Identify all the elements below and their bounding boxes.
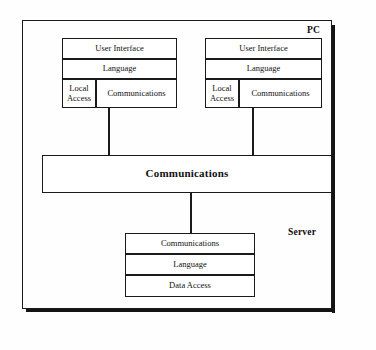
boundary-shadow-bottom [26,309,335,312]
diagram-canvas: PC Server User Interface Language Local … [0,0,376,350]
connector-client-left-to-bus [108,108,110,155]
client-left-local-access-layer: Local Access [62,79,96,108]
client-right-user-interface-layer: User Interface [205,38,322,59]
client-left-user-interface-layer: User Interface [62,38,177,59]
server-language-layer: Language [125,254,255,275]
server-data-access-layer: Data Access [125,275,255,297]
network-communications-bus: Communications [42,155,332,193]
server-communications-layer: Communications [125,233,255,254]
client-left-language-layer: Language [62,59,177,79]
boundary-shadow-right [332,25,335,313]
connector-bus-to-server [190,193,192,233]
pc-zone-label: PC [307,25,320,35]
client-left-communications-layer: Communications [96,79,177,108]
connector-client-right-to-bus [252,108,254,155]
client-right-communications-layer: Communications [239,79,322,108]
client-right-language-layer: Language [205,59,322,79]
server-zone-label: Server [288,227,316,237]
client-right-local-access-layer: Local Access [205,79,239,108]
